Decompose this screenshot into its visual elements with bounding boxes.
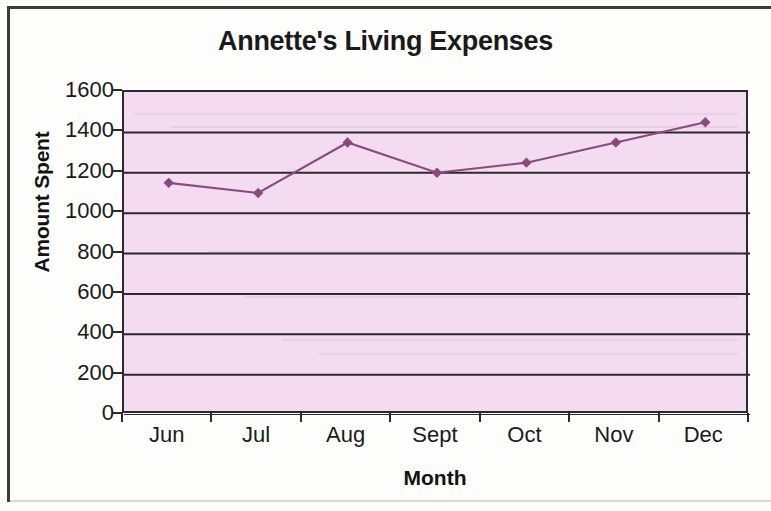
y-tick-1600 bbox=[113, 89, 122, 91]
y-tick-label-1400: 1400 bbox=[6, 119, 114, 141]
y-tick-1200 bbox=[113, 170, 122, 172]
data-point-dec bbox=[700, 117, 710, 127]
x-tick-7 bbox=[747, 413, 749, 422]
x-axis-tick-labels: JunJulAugSeptOctNovDec bbox=[122, 424, 748, 454]
x-tick-0 bbox=[121, 413, 123, 422]
y-tick-label-1600: 1600 bbox=[6, 79, 114, 101]
y-tick-label-200: 200 bbox=[6, 362, 114, 384]
y-tick-400 bbox=[113, 331, 122, 333]
x-tick-label-nov: Nov bbox=[569, 424, 658, 446]
y-tick-label-1200: 1200 bbox=[6, 160, 114, 182]
y-tick-200 bbox=[113, 372, 122, 374]
chart-title: Annette's Living Expenses bbox=[0, 26, 771, 57]
x-tick-label-dec: Dec bbox=[659, 424, 748, 446]
data-point-sept bbox=[432, 168, 442, 178]
y-tick-label-600: 600 bbox=[6, 281, 114, 303]
data-point-jul bbox=[253, 188, 263, 198]
data-point-jun bbox=[164, 178, 174, 188]
line-chart-svg bbox=[124, 92, 750, 415]
scan-noise bbox=[134, 114, 738, 354]
y-tick-label-800: 800 bbox=[6, 241, 114, 263]
y-tick-600 bbox=[113, 291, 122, 293]
y-tick-label-400: 400 bbox=[6, 321, 114, 343]
y-tick-label-0: 0 bbox=[6, 402, 114, 424]
scanned-page: Annette's Living Expenses Amount Spent M… bbox=[0, 0, 771, 511]
x-tick-label-aug: Aug bbox=[301, 424, 390, 446]
x-tick-2 bbox=[300, 413, 302, 422]
x-axis-title: Month bbox=[122, 466, 748, 490]
y-tick-1000 bbox=[113, 210, 122, 212]
x-tick-5 bbox=[568, 413, 570, 422]
x-tick-6 bbox=[658, 413, 660, 422]
y-tick-800 bbox=[113, 251, 122, 253]
y-tick-1400 bbox=[113, 129, 122, 131]
data-point-nov bbox=[611, 137, 621, 147]
data-point-aug bbox=[342, 137, 352, 147]
plot-area bbox=[122, 90, 748, 413]
y-axis-tick-labels: 16001400120010008006004002000 bbox=[0, 0, 114, 511]
page-border-bottom bbox=[10, 500, 771, 502]
x-tick-label-oct: Oct bbox=[480, 424, 569, 446]
x-tick-3 bbox=[389, 413, 391, 422]
x-tick-label-jul: Jul bbox=[211, 424, 300, 446]
x-tick-label-jun: Jun bbox=[122, 424, 211, 446]
page-border-top bbox=[7, 6, 771, 9]
x-tick-4 bbox=[479, 413, 481, 422]
x-tick-1 bbox=[210, 413, 212, 422]
x-tick-label-sept: Sept bbox=[390, 424, 479, 446]
y-tick-label-1000: 1000 bbox=[6, 200, 114, 222]
data-point-oct bbox=[521, 157, 531, 167]
series-markers bbox=[164, 117, 711, 198]
